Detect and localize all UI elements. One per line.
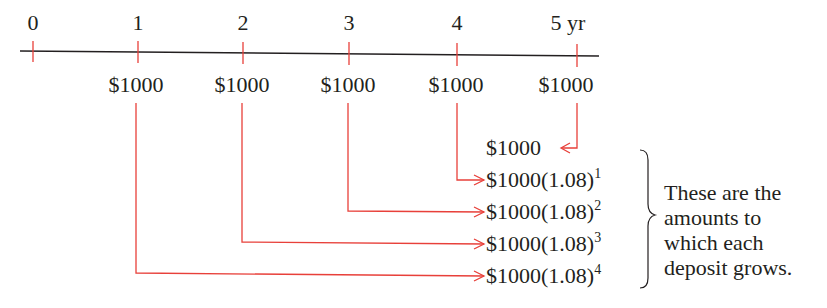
year-label-3: 3 <box>344 12 355 34</box>
deposit-amount-1: $1000 <box>109 74 164 96</box>
year-label-4: 4 <box>452 12 463 34</box>
future-value-2: $1000(1.08)2 <box>486 201 601 223</box>
year-label-2: 2 <box>238 12 249 34</box>
deposit-amount-2: $1000 <box>215 74 270 96</box>
exponent: 1 <box>594 166 601 181</box>
future-value-4: $1000(1.08)4 <box>486 265 601 287</box>
future-value-3: $1000(1.08)3 <box>486 233 601 255</box>
year-label-0: 0 <box>28 12 39 34</box>
annotation-text: These are the amounts to which each depo… <box>664 180 827 280</box>
exponent: 3 <box>594 230 601 245</box>
exponent: 2 <box>594 198 601 213</box>
deposit-amount-5: $1000 <box>539 74 594 96</box>
year-label-5: 5 yr <box>551 12 586 34</box>
deposit-amount-3: $1000 <box>321 74 376 96</box>
future-value-1: $1000(1.08)1 <box>486 169 601 191</box>
exponent: 4 <box>594 262 601 277</box>
future-value-0: $1000 <box>486 137 541 159</box>
timeline-axis <box>20 51 599 56</box>
deposit-amount-4: $1000 <box>429 74 484 96</box>
year-label-1: 1 <box>133 12 144 34</box>
curly-brace <box>640 150 655 288</box>
